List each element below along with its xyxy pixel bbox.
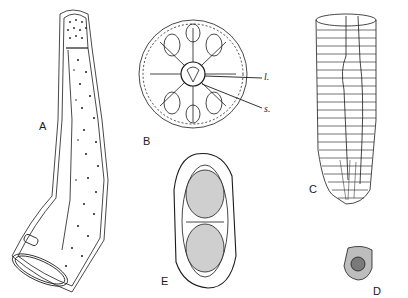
panel-e-drawing [174, 153, 236, 288]
panel-label-b: B [143, 136, 150, 147]
annotation-l: l. [264, 72, 269, 82]
annotation-s: s. [264, 104, 270, 114]
panel-d-drawing [344, 246, 372, 280]
panel-a-drawing [8, 10, 108, 293]
figure: A B C D E l. s. [0, 0, 408, 298]
panel-c-drawing [316, 14, 376, 204]
panel-b-drawing [139, 20, 262, 128]
illustration-drawings [0, 0, 408, 298]
panel-label-d: D [373, 286, 381, 297]
panel-label-e: E [161, 276, 168, 287]
panel-label-c: C [309, 184, 317, 195]
panel-label-a: A [39, 121, 46, 132]
